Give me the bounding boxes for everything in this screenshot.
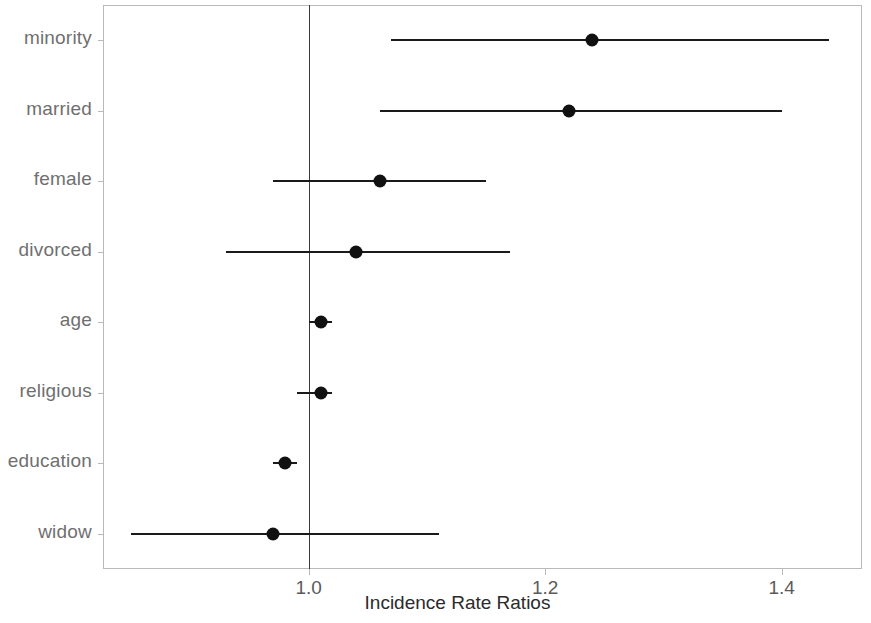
confidence-interval-line [391, 39, 828, 41]
confidence-interval-line [380, 110, 782, 112]
x-axis-title-text: Incidence Rate Ratios [365, 592, 551, 613]
y-axis-tick [98, 252, 103, 253]
estimate-point [314, 386, 327, 399]
forest-row [0, 305, 871, 339]
x-axis-tick [545, 569, 546, 575]
y-axis-tick [98, 393, 103, 394]
forest-plot-figure: minoritymarriedfemaledivorcedagereligiou… [0, 0, 871, 623]
y-axis-label-female: female [34, 168, 92, 190]
estimate-point [267, 527, 280, 540]
estimate-point [350, 245, 363, 258]
y-axis-label-widow: widow [38, 521, 92, 543]
estimate-point [279, 457, 292, 470]
y-axis-tick [98, 181, 103, 182]
forest-row [0, 376, 871, 410]
y-axis-tick [98, 463, 103, 464]
reference-line [309, 5, 310, 569]
y-axis-label-minority: minority [24, 27, 92, 49]
confidence-interval-line [226, 251, 510, 253]
y-axis-label-religious: religious [19, 380, 92, 402]
y-axis-tick [98, 111, 103, 112]
confidence-interval-line [131, 533, 438, 535]
estimate-point [586, 34, 599, 47]
estimate-point [373, 175, 386, 188]
plot-panel [103, 5, 862, 569]
x-axis-tick [782, 569, 783, 575]
x-axis-tick [309, 569, 310, 575]
x-axis-title: Incidence Rate Ratios [0, 592, 871, 614]
estimate-point [562, 104, 575, 117]
y-axis-tick [98, 322, 103, 323]
y-axis-label-education: education [8, 450, 92, 472]
estimate-point [314, 316, 327, 329]
forest-row [0, 446, 871, 480]
y-axis-label-married: married [26, 98, 92, 120]
y-axis-tick [98, 534, 103, 535]
y-axis-label-divorced: divorced [19, 239, 92, 261]
y-axis-tick [98, 40, 103, 41]
y-axis-label-age: age [60, 309, 92, 331]
